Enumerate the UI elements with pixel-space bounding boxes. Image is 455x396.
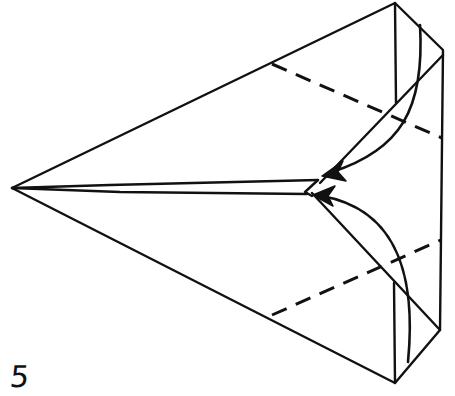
- fold-arrow-upper: [322, 25, 421, 181]
- step-number: 5: [8, 362, 30, 392]
- center-flap: [12, 180, 318, 196]
- valley-fold-line-upper: [272, 64, 442, 138]
- origami-diagram: [0, 0, 455, 396]
